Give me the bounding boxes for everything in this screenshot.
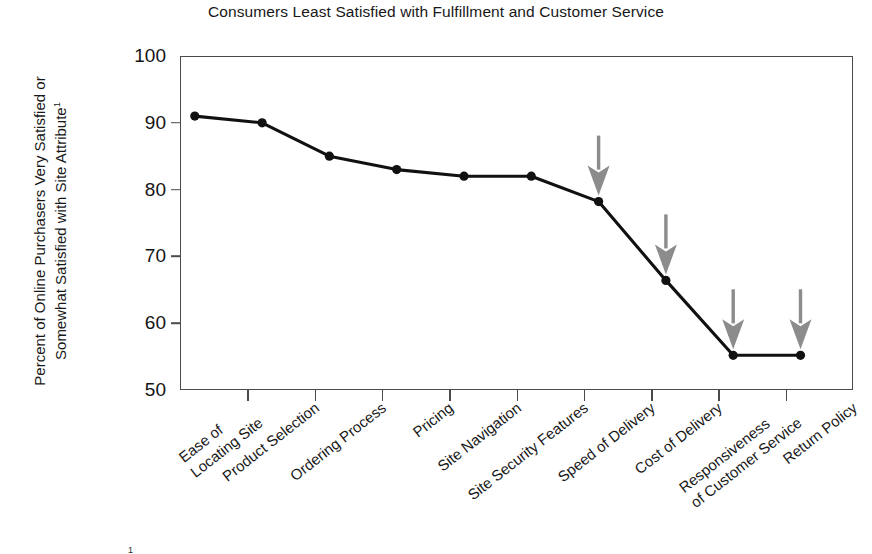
down-arrow-icon <box>722 289 744 349</box>
footnote-marker: 1 <box>128 545 133 554</box>
footnote: 1 <box>128 546 133 554</box>
down-arrow-icon <box>655 214 677 274</box>
down-arrow-icon <box>588 136 610 196</box>
down-arrow-icon <box>790 289 812 349</box>
